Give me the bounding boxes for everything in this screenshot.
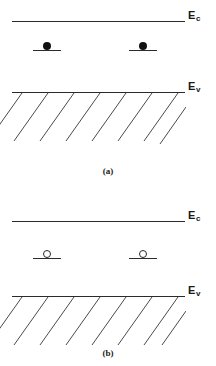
valence-band-label-sub-b: v bbox=[196, 289, 201, 298]
conduction-band-label-base-a: E bbox=[188, 9, 196, 21]
valence-band-label-b: Ev bbox=[188, 285, 201, 298]
valence-band-label-base-a: E bbox=[188, 80, 196, 92]
panel-caption-b: (b) bbox=[0, 349, 216, 358]
trap-level-b-1 bbox=[33, 258, 61, 259]
panel-a: Ec Ev bbox=[0, 0, 216, 183]
valence-band-label-sub-a: v bbox=[196, 85, 201, 94]
trap-level-b-2 bbox=[129, 258, 157, 259]
conduction-band-label-base-b: E bbox=[188, 209, 196, 221]
conduction-band-line-b bbox=[12, 221, 185, 222]
conduction-band-line-a bbox=[12, 21, 185, 22]
conduction-band-label-b: Ec bbox=[188, 210, 201, 223]
valence-band-label-a: Ev bbox=[188, 81, 201, 94]
conduction-band-label-a: Ec bbox=[188, 10, 201, 23]
conduction-band-label-sub-a: c bbox=[196, 14, 201, 23]
electron-icon bbox=[43, 42, 51, 50]
valence-band-label-base-b: E bbox=[188, 284, 196, 296]
band-diagram-figure: Ec Ev bbox=[0, 0, 216, 366]
hole-icon bbox=[139, 250, 147, 258]
trap-level-a-2 bbox=[129, 50, 157, 51]
electron-icon bbox=[139, 42, 147, 50]
trap-level-a-1 bbox=[33, 50, 61, 51]
valence-band-hatching-a bbox=[0, 93, 186, 148]
valence-band-hatching-b bbox=[0, 297, 186, 347]
panel-b: Ec Ev bbox=[0, 183, 216, 366]
conduction-band-label-sub-b: c bbox=[196, 214, 201, 223]
panel-caption-a: (a) bbox=[0, 167, 216, 176]
hole-icon bbox=[43, 250, 51, 258]
